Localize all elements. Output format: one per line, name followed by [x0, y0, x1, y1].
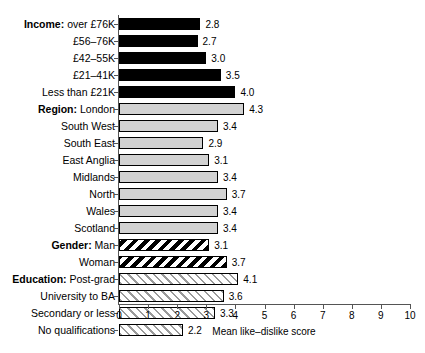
bar [119, 171, 218, 183]
plot-area: Income: over £76K2.8£56–76K2.7£42–55K3.0… [0, 0, 425, 353]
y-axis-tick [114, 177, 118, 178]
category-label-text: University to BA [40, 290, 115, 302]
category-label-text: London [80, 103, 115, 115]
bar [119, 256, 227, 268]
bar-value-label: 2.7 [203, 35, 217, 48]
bar-value-label: 3.7 [232, 256, 246, 269]
y-axis-tick [114, 58, 118, 59]
x-axis-tick-label: 7 [311, 310, 335, 322]
category-label: Region: London [0, 103, 115, 116]
bar-row: Wales3.4 [0, 203, 425, 220]
y-axis-tick [114, 228, 118, 229]
category-label: Less than £21K [0, 86, 115, 99]
x-axis-tick [352, 304, 353, 309]
category-label: Education: Post-grad [0, 273, 115, 286]
bar-row: Scotland3.4 [0, 220, 425, 237]
category-label: £56–76K [0, 35, 115, 48]
bar-row: £56–76K2.7 [0, 33, 425, 50]
bar [119, 69, 221, 81]
x-axis-tick [206, 304, 207, 309]
category-label: Scotland [0, 222, 115, 235]
bar-row: Woman3.7 [0, 254, 425, 271]
bar [119, 188, 227, 200]
category-label-text: £21–41K [73, 69, 115, 81]
y-axis-tick [114, 211, 118, 212]
category-label: £21–41K [0, 69, 115, 82]
category-label: £42–55K [0, 52, 115, 65]
category-group-name: Gender: [51, 239, 94, 251]
bar-row: Less than £21K4.0 [0, 84, 425, 101]
bar [119, 103, 244, 115]
y-axis-tick [114, 75, 118, 76]
x-axis-tick-label: 5 [253, 310, 277, 322]
y-axis-tick [114, 109, 118, 110]
bar-row: £21–41K3.5 [0, 67, 425, 84]
x-axis-tick-label: 6 [282, 310, 306, 322]
bar-row: South West3.4 [0, 118, 425, 135]
bar-row: East Anglia3.1 [0, 152, 425, 169]
category-label: Income: over £76K [0, 18, 115, 31]
category-label: Woman [0, 256, 115, 269]
category-label: No qualifications [0, 324, 115, 337]
bar [119, 205, 218, 217]
bar-value-label: 3.6 [229, 290, 243, 303]
y-axis-tick [114, 296, 118, 297]
x-axis-tick [323, 304, 324, 309]
category-label: North [0, 188, 115, 201]
bar-row: North3.7 [0, 186, 425, 203]
bar [119, 86, 235, 98]
bar-row: Education: Post-grad4.1 [0, 271, 425, 288]
x-axis-tick-label: 9 [369, 310, 393, 322]
y-axis-tick [114, 92, 118, 93]
bar [119, 35, 198, 47]
category-label-text: Midlands [73, 171, 115, 183]
category-label-text: No qualifications [38, 324, 115, 336]
x-axis-tick [119, 304, 120, 309]
bar-value-label: 2.9 [208, 137, 222, 150]
category-label: University to BA [0, 290, 115, 303]
category-label-text: Scotland [74, 222, 115, 234]
category-label: Gender: Man [0, 239, 115, 252]
x-axis-tick-label: 10 [398, 310, 422, 322]
x-axis-tick [294, 304, 295, 309]
category-group-name: Region: [38, 103, 80, 115]
bar [119, 18, 200, 30]
y-axis-tick [114, 262, 118, 263]
category-label-text: Less than £21K [42, 86, 115, 98]
bar-value-label: 4.1 [243, 273, 257, 286]
bar-value-label: 3.4 [223, 120, 237, 133]
bar-value-label: 4.0 [240, 86, 254, 99]
bar [119, 154, 209, 166]
category-label-text: Man [95, 239, 115, 251]
y-axis-tick [114, 245, 118, 246]
category-label-text: East Anglia [62, 154, 115, 166]
bar-row: Midlands3.4 [0, 169, 425, 186]
category-label-text: Secondary or less [31, 307, 115, 319]
y-axis-tick [114, 24, 118, 25]
bar [119, 137, 203, 149]
bar [119, 52, 206, 64]
x-axis-tick-label: 4 [223, 310, 247, 322]
y-axis-tick [114, 143, 118, 144]
bar-row: £42–55K3.0 [0, 50, 425, 67]
x-axis-tick-label: 3 [194, 310, 218, 322]
y-axis-tick [114, 126, 118, 127]
category-label-text: Post-grad [69, 273, 115, 285]
bar-value-label: 3.7 [232, 188, 246, 201]
category-label-text: South East [64, 137, 115, 149]
bar-row: South East2.9 [0, 135, 425, 152]
y-axis-tick [114, 41, 118, 42]
category-label: South West [0, 120, 115, 133]
y-axis-tick [114, 279, 118, 280]
x-axis-tick [265, 304, 266, 309]
bar-chart: Income: over £76K2.8£56–76K2.7£42–55K3.0… [0, 0, 425, 353]
bar [119, 239, 209, 251]
category-label-text: Wales [86, 205, 115, 217]
category-label: Secondary or less [0, 307, 115, 320]
bar-value-label: 4.3 [249, 103, 263, 116]
bar-row: Region: London4.3 [0, 101, 425, 118]
x-axis-tick [177, 304, 178, 309]
bar-value-label: 2.8 [205, 18, 219, 31]
bar-row: Income: over £76K2.8 [0, 16, 425, 33]
category-label-text: over £76K [67, 18, 115, 30]
